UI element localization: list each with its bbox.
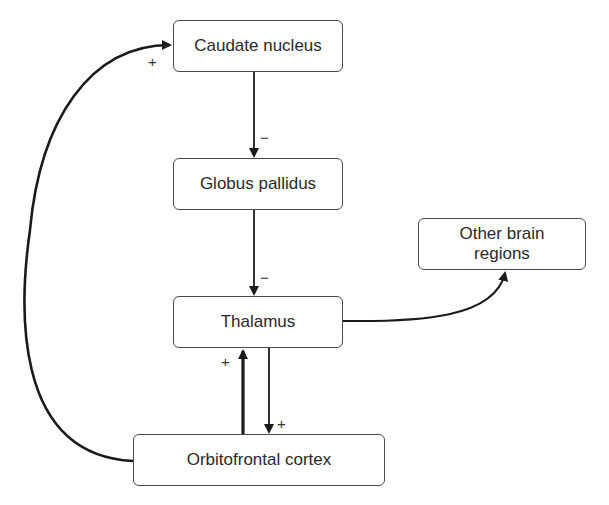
node-thalamus: Thalamus — [173, 296, 343, 348]
node-label: Globus pallidus — [200, 174, 316, 194]
node-caudate-nucleus: Caudate nucleus — [173, 20, 343, 72]
node-other-brain-regions: Other brain regions — [418, 218, 586, 270]
sign-caudate-globus: − — [260, 130, 269, 145]
edge-thalamus-other — [343, 273, 505, 321]
node-label: Caudate nucleus — [194, 36, 322, 56]
node-label: Orbitofrontal cortex — [187, 450, 332, 470]
edge-ofc-caudate — [25, 45, 170, 461]
node-globus-pallidus: Globus pallidus — [173, 158, 343, 210]
node-orbitofrontal-cortex: Orbitofrontal cortex — [133, 434, 385, 486]
sign-thalamus-ofc: + — [277, 416, 286, 431]
node-label: Other brain regions — [449, 224, 555, 264]
sign-ofc-caudate: + — [148, 54, 157, 69]
node-label: Thalamus — [221, 312, 296, 332]
sign-ofc-thalamus: + — [221, 354, 230, 369]
sign-globus-thalamus: − — [260, 270, 269, 285]
